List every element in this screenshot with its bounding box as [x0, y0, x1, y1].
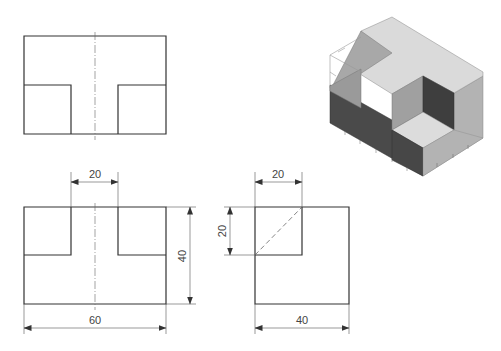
front-view: 20 40 60	[24, 168, 196, 334]
isometric-view	[330, 17, 483, 176]
dimension-text-20: 20	[89, 168, 101, 180]
drawing-canvas: 20 40 60 20 20 40	[0, 0, 501, 351]
dimension-text-60: 60	[89, 314, 101, 326]
top-view	[24, 32, 166, 140]
side-view-hidden-diagonal	[255, 207, 302, 255]
side-view: 20 20 40	[216, 168, 349, 334]
dimension-text-20-left: 20	[216, 225, 228, 237]
dimension-text-40-side: 40	[296, 314, 308, 326]
dimension-text-20-top: 20	[272, 168, 284, 180]
dimension-text-40: 40	[176, 250, 188, 262]
